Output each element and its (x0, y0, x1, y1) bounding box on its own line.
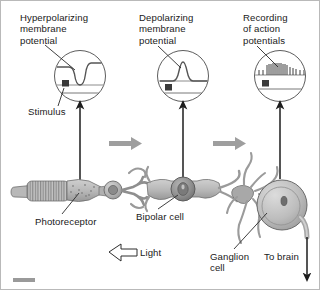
inset-depolarizing (158, 46, 209, 102)
inset-action-potentials (255, 46, 306, 102)
outer-segment (27, 181, 69, 201)
nucleus (281, 196, 287, 205)
nucleus (108, 185, 117, 194)
flow-arrow-2 (213, 137, 246, 150)
light-direction-arrow (109, 244, 137, 261)
retina-pathway-figure: Hyperpolarizing membrane potential Stimu… (0, 0, 320, 290)
flow-arrow-1 (109, 137, 142, 150)
bipolar-cell (145, 167, 239, 211)
inner-segment (67, 180, 103, 202)
diagram-graphics (1, 1, 320, 290)
stimulus-marker (165, 84, 172, 91)
inset-hyperpolarizing (45, 45, 106, 106)
photoreceptor-cell (11, 169, 147, 215)
stimulus-marker (262, 80, 269, 87)
stimulus-marker (62, 80, 69, 87)
